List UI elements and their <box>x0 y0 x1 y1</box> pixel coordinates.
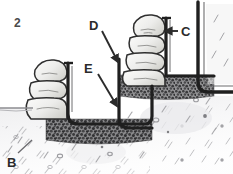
figure-number-label: 2 <box>14 16 21 30</box>
cross-section-diagram: 2 D C E B <box>0 0 233 174</box>
technical-illustration-figure: 2 D C E B <box>0 0 233 174</box>
label-d: D <box>89 18 98 33</box>
label-e: E <box>84 61 93 76</box>
label-b: B <box>7 155 16 170</box>
label-c: C <box>181 24 191 39</box>
